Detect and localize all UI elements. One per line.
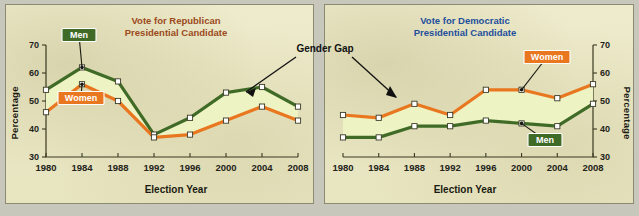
figure-canvas: Vote for Republican Presidential Candida… [0,0,639,216]
gender-gap-arrow-left [246,57,296,97]
gender-gap-label: Gender Gap [296,43,353,54]
gender-gap-annotation-layer: Gender Gap [0,0,639,216]
gender-gap-arrow-right [352,57,397,98]
